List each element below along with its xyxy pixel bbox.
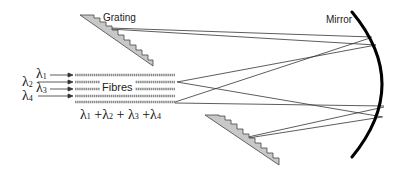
lower-grating [205,115,279,165]
ray [175,38,370,102]
svg-text:λ2: λ2 [22,74,33,89]
svg-text:λ4: λ4 [22,88,33,103]
grating-label: Grating [103,12,136,23]
spectrograph-diagram: Grating Mirror Fibres λ1 λ2 λ3 λ4 λ1 +λ2… [0,0,407,176]
ray [177,45,376,82]
wavelength-labels: λ1 λ2 λ3 λ4 [22,66,47,103]
fibres-label: Fibres [102,81,133,93]
ray [175,103,384,106]
ray [248,117,382,138]
sum-label: λ1 +λ2 + λ3 +λ4 [80,107,161,122]
ray [110,28,372,37]
concave-mirror [352,12,382,157]
mirror-label: Mirror [326,14,353,25]
ray [248,107,384,137]
ray [110,29,376,45]
svg-text:λ1: λ1 [36,66,47,81]
ray [177,82,383,117]
